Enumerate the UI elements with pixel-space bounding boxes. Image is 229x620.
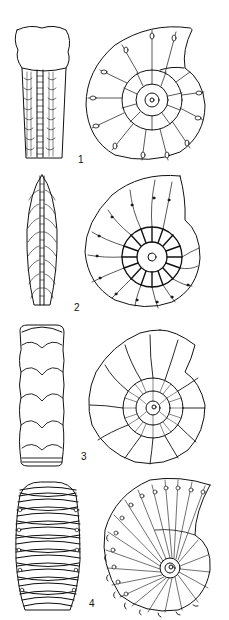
ammonite-plate: 1 2 3 4 [0,0,229,620]
plate-drawing [0,0,229,620]
specimen-3-ventral-view [20,325,65,466]
specimen-1-ventral-view [15,26,69,158]
specimen-label-4: 4 [89,598,95,609]
specimen-4-ventral-view [16,482,80,610]
specimen-2-ventral-view [27,175,57,305]
specimen-label-2: 2 [74,302,80,313]
specimen-label-1: 1 [78,154,84,165]
specimen-3-lateral-view [89,330,205,464]
specimen-label-3: 3 [81,451,87,462]
specimen-4-lateral-view [104,478,210,617]
specimen-1-lateral-view [86,27,205,160]
specimen-2-lateral-view [85,175,200,308]
